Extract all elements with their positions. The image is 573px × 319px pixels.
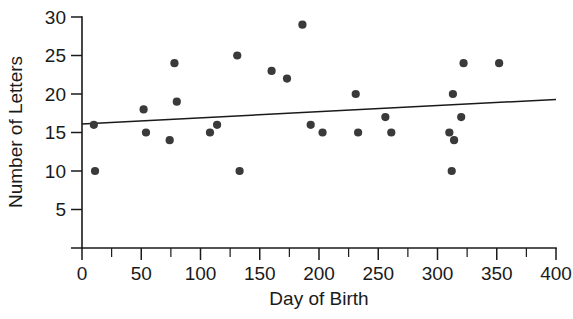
x-tick-label: 400 <box>540 263 572 284</box>
data-point <box>206 128 214 136</box>
data-point <box>459 59 467 67</box>
data-point <box>450 136 458 144</box>
data-point <box>448 167 456 175</box>
data-point <box>352 90 360 98</box>
plot-canvas: 51015202530 050100150200250300350400 Day… <box>0 0 573 319</box>
x-tick-label: 350 <box>481 263 513 284</box>
x-tick-label: 250 <box>362 263 394 284</box>
data-point <box>142 128 150 136</box>
y-axis-ticks <box>71 17 82 248</box>
data-point <box>495 59 503 67</box>
data-point <box>307 121 315 129</box>
y-tick-label: 25 <box>45 45 66 66</box>
x-axis-ticks <box>82 248 556 260</box>
data-point <box>166 136 174 144</box>
y-tick-label: 10 <box>45 161 66 182</box>
x-tick-label: 50 <box>131 263 152 284</box>
y-tick-label: 30 <box>45 7 66 28</box>
y-axis-title: Number of Letters <box>5 56 26 208</box>
data-point <box>236 167 244 175</box>
data-point <box>381 113 389 121</box>
data-point <box>140 105 148 113</box>
data-point <box>268 67 276 75</box>
data-point <box>91 167 99 175</box>
data-point <box>354 128 362 136</box>
data-point <box>213 121 221 129</box>
data-point <box>449 90 457 98</box>
data-point <box>233 51 241 59</box>
trend-line-path <box>82 99 556 124</box>
data-point <box>387 128 395 136</box>
x-tick-label: 150 <box>244 263 276 284</box>
data-point <box>318 128 326 136</box>
x-axis-title: Day of Birth <box>269 288 368 309</box>
x-tick-label: 100 <box>185 263 217 284</box>
x-tick-label: 0 <box>77 263 88 284</box>
y-tick-label: 20 <box>45 84 66 105</box>
data-points <box>90 21 503 175</box>
scatter-plot-figure: 51015202530 050100150200250300350400 Day… <box>0 0 573 319</box>
y-tick-label: 15 <box>45 122 66 143</box>
trend-line <box>82 99 556 124</box>
y-axis-tick-labels: 51015202530 <box>45 7 66 221</box>
data-point <box>445 128 453 136</box>
data-point <box>90 121 98 129</box>
x-tick-label: 300 <box>422 263 454 284</box>
y-tick-label: 5 <box>55 199 66 220</box>
data-point <box>283 75 291 83</box>
x-tick-label: 200 <box>303 263 335 284</box>
data-point <box>457 113 465 121</box>
data-point <box>173 98 181 106</box>
data-point <box>170 59 178 67</box>
x-axis-tick-labels: 050100150200250300350400 <box>77 263 572 284</box>
data-point <box>298 21 306 29</box>
